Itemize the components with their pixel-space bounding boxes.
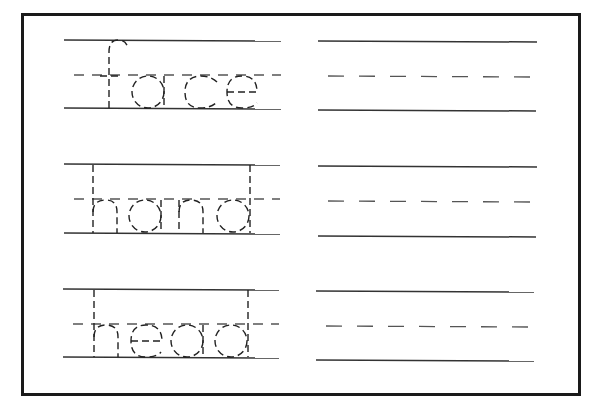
row-3-tracing (63, 289, 279, 358)
row-2-practice (318, 166, 537, 237)
row-1-tracing (64, 40, 281, 109)
row-3-practice (316, 291, 534, 361)
trace-word-face (100, 40, 257, 108)
worksheet-canvas (0, 0, 602, 413)
row-2-tracing (64, 164, 280, 234)
row-1-practice (318, 41, 537, 111)
